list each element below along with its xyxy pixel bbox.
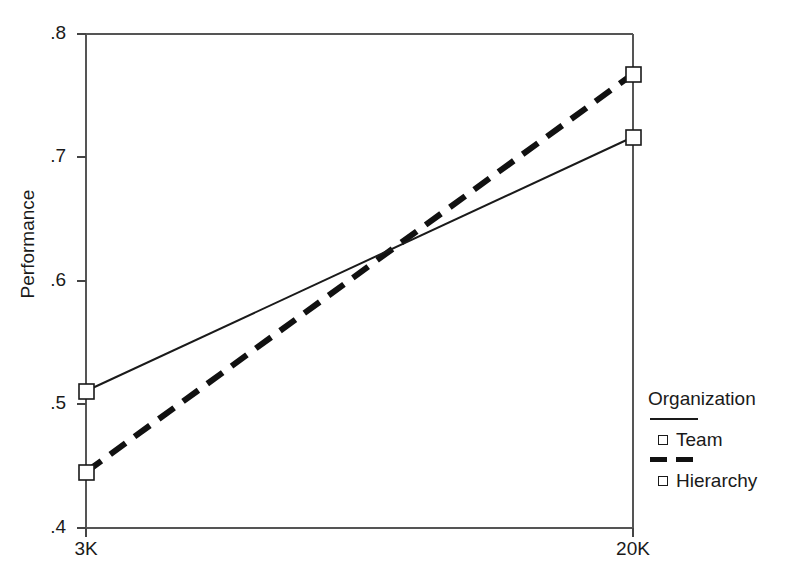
series-hierarchy-point-3k: [79, 465, 94, 480]
legend-swatch-dashed-line: [650, 454, 792, 467]
legend-label-team: Team: [676, 429, 722, 451]
x-tick-marks: [86, 528, 633, 537]
series-hierarchy-line: [86, 74, 633, 472]
y-tick-label-0.8: .8: [26, 22, 66, 44]
chart-legend: Organization Team Hierarchy: [648, 388, 792, 495]
y-axis-title: Performance: [17, 154, 39, 334]
legend-marker-square-hierarchy: [658, 476, 668, 486]
plot-frame: [86, 34, 633, 528]
x-tick-label-3k: 3K: [51, 538, 121, 560]
series-hierarchy-point-20k: [626, 67, 641, 82]
y-tick-label-0.6: .6: [26, 269, 66, 291]
legend-marker-square-team: [658, 435, 668, 445]
x-tick-label-20k: 20K: [598, 538, 668, 560]
legend-title: Organization: [648, 388, 792, 410]
legend-entry-team: Team: [648, 413, 792, 454]
legend-swatch-solid-line: [650, 413, 792, 426]
series-team-point-3k: [79, 384, 94, 399]
legend-label-hierarchy: Hierarchy: [676, 470, 757, 492]
series-team: [79, 130, 641, 399]
y-tick-label-0.4: .4: [26, 516, 66, 538]
chart-figure: Performance .8 .7 .6 .5 .4 3K 20K Organi…: [0, 0, 792, 574]
y-tick-label-0.7: .7: [26, 145, 66, 167]
y-tick-label-0.5: .5: [26, 392, 66, 414]
series-team-point-20k: [626, 130, 641, 145]
series-team-line: [86, 137, 633, 391]
series-hierarchy: [79, 67, 641, 480]
legend-entry-hierarchy: Hierarchy: [648, 454, 792, 495]
y-tick-marks: [77, 34, 86, 528]
